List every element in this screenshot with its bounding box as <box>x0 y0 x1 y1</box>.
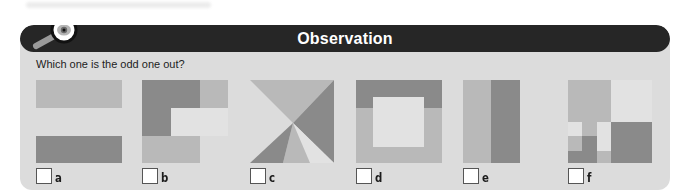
panel-header: Observation <box>20 25 670 52</box>
shape-block <box>491 80 520 163</box>
shape-block <box>36 80 122 108</box>
shape-block <box>142 80 200 108</box>
shape-block <box>171 108 228 136</box>
option-d[interactable]: d <box>356 168 384 184</box>
figure-c <box>250 80 334 163</box>
shape-block <box>597 151 611 163</box>
figure-b <box>142 80 228 163</box>
checkbox-b[interactable] <box>142 168 158 184</box>
checkbox-a[interactable] <box>36 168 52 184</box>
shape-block <box>142 136 200 163</box>
checkbox-e[interactable] <box>463 168 479 184</box>
option-e[interactable]: e <box>463 168 490 184</box>
shape-block <box>568 151 597 163</box>
checkbox-c[interactable] <box>250 168 266 184</box>
option-b[interactable]: b <box>142 168 170 184</box>
blurred-caption <box>26 2 211 8</box>
figure-e <box>463 80 520 163</box>
figure-a <box>36 80 122 163</box>
question-text: Which one is the odd one out? <box>36 58 185 70</box>
magnifier-eye-icon <box>28 25 88 56</box>
panel-title: Observation <box>20 30 670 48</box>
checkbox-f[interactable] <box>568 168 584 184</box>
option-f[interactable]: f <box>568 168 592 184</box>
option-label-f: f <box>587 172 591 184</box>
option-a[interactable]: a <box>36 168 63 184</box>
observation-panel: Observation Which one is the odd one out… <box>20 25 670 190</box>
shape-block <box>142 108 171 136</box>
shape-block <box>463 80 491 163</box>
shape-block <box>36 136 122 163</box>
shape-block <box>568 80 611 122</box>
option-label-e: e <box>482 172 489 184</box>
shape-block <box>582 122 597 136</box>
figure-f <box>568 80 652 163</box>
option-label-b: b <box>161 172 168 184</box>
figure-d <box>356 80 442 163</box>
shape-block <box>200 80 228 108</box>
shape-block <box>568 136 582 151</box>
shape-block <box>611 122 652 163</box>
checkbox-d[interactable] <box>356 168 372 184</box>
option-label-d: d <box>375 172 382 184</box>
shape-block <box>373 97 424 147</box>
option-label-c: c <box>269 172 275 184</box>
shape-block <box>582 136 597 151</box>
option-label-a: a <box>55 172 62 184</box>
option-c[interactable]: c <box>250 168 276 184</box>
